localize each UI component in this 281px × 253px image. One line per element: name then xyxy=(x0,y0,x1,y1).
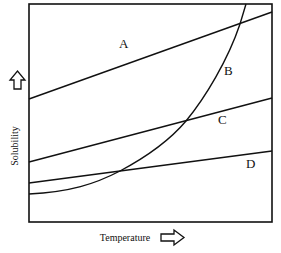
curve-a xyxy=(29,12,272,99)
x-axis-label: Temperature xyxy=(100,232,151,243)
solubility-chart: A B C D Solubility Temperature xyxy=(0,0,281,253)
arrow-up-icon xyxy=(10,71,25,89)
label-c: C xyxy=(218,112,227,127)
arrow-right-icon xyxy=(161,230,184,245)
curve-d xyxy=(29,151,272,183)
label-a: A xyxy=(119,36,129,51)
y-axis-label: Solubility xyxy=(9,126,20,165)
label-b: B xyxy=(224,63,233,78)
label-d: D xyxy=(246,156,255,171)
